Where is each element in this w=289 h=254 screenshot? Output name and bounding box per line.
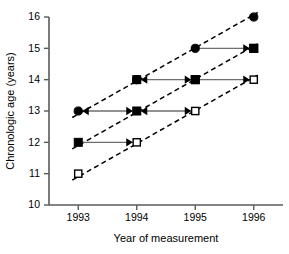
y-tick-label: 10	[28, 198, 40, 210]
chronologic-age-scatter-chart: 10111213141516 1993199419951996 Year of …	[0, 0, 289, 254]
connector-age-14b-arrowhead-right	[243, 75, 250, 83]
connector-age-13a-arrowhead-right	[126, 107, 133, 115]
trend-square	[72, 44, 258, 149]
trend-circle	[72, 13, 258, 118]
y-tick-group: 10111213141516	[28, 10, 49, 210]
x-tick-label: 1993	[67, 211, 91, 223]
marker-filled-circle	[191, 44, 199, 52]
connector-arrows-group	[82, 44, 250, 146]
connector-age-15-arrowhead-right	[243, 44, 250, 52]
chart-container: 10111213141516 1993199419951996 Year of …	[0, 0, 289, 254]
y-tick-label: 13	[28, 104, 40, 116]
trend-open-square	[72, 75, 258, 180]
connector-age-12-arrowhead-right	[126, 138, 133, 146]
x-axis-group: 1993199419951996	[49, 205, 283, 223]
y-tick-label: 11	[29, 167, 40, 179]
connector-age-13a-arrowhead-left	[82, 107, 89, 115]
x-axis-title: Year of measurement	[114, 232, 219, 244]
data-markers-group	[74, 13, 258, 177]
marker-filled-circle	[74, 107, 82, 115]
marker-filled-square	[74, 138, 82, 146]
marker-open-square	[192, 107, 199, 114]
x-tick-group: 1993199419951996	[67, 205, 266, 223]
marker-filled-square	[250, 44, 258, 52]
marker-open-square	[250, 76, 257, 83]
connector-age-14a-arrowhead-left	[141, 75, 148, 83]
y-tick-label: 16	[28, 10, 40, 22]
marker-filled-circle	[250, 13, 258, 21]
marker-filled-square	[133, 107, 141, 115]
marker-open-square	[75, 170, 82, 177]
x-tick-label: 1995	[184, 211, 208, 223]
x-tick-label: 1994	[125, 211, 149, 223]
y-axis-title: Chronologic age (years)	[4, 52, 16, 169]
connector-age-13b-arrowhead-left	[141, 107, 148, 115]
marker-filled-square	[133, 76, 141, 84]
y-tick-label: 15	[28, 42, 40, 54]
y-tick-label: 12	[28, 136, 40, 148]
x-tick-label: 1996	[242, 211, 266, 223]
y-tick-label: 14	[28, 73, 40, 85]
y-axis-group: 10111213141516	[28, 10, 49, 210]
marker-open-square	[133, 139, 140, 146]
trend-lines-group	[72, 13, 258, 181]
marker-filled-square	[191, 76, 199, 84]
